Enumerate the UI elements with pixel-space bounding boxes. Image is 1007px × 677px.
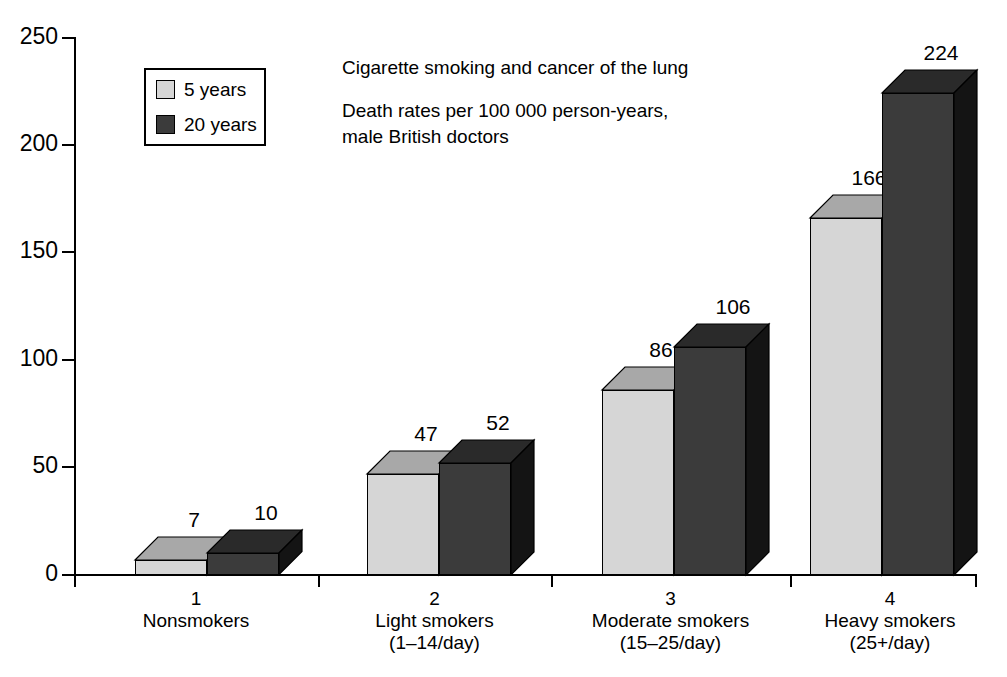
x-group-label-4: 4 Heavy smokers (25+/day) <box>790 588 990 654</box>
chart-title: Cigarette smoking and cancer of the lung <box>342 55 762 81</box>
chart-subtitle-line-2: male British doctors <box>342 124 762 150</box>
bar-front-face <box>602 390 674 575</box>
x-group-number-1: 1 <box>74 588 318 610</box>
bar-front-face <box>882 93 954 575</box>
bar-top-face <box>439 440 511 463</box>
bar-front-face <box>367 474 439 575</box>
x-group-name-4: Heavy smokers <box>790 610 990 632</box>
bar-4-20-years <box>882 70 954 575</box>
bar-2-20-years <box>439 440 511 575</box>
y-tick-label-0: 0 <box>4 562 58 585</box>
y-tick-mark-200 <box>62 144 74 146</box>
bar-value-label-1-20-years: 10 <box>216 502 316 523</box>
x-group-range-4: (25+/day) <box>790 632 990 654</box>
legend: 5 years 20 years <box>144 68 266 146</box>
y-tick-mark-50 <box>62 466 74 468</box>
x-group-name-2: Light smokers <box>318 610 551 632</box>
y-tick-label-50: 50 <box>4 454 58 477</box>
bar-top-face <box>367 451 439 474</box>
bar-side-face <box>511 440 534 575</box>
bar-top-face <box>810 195 882 218</box>
bar-side-face <box>279 530 302 575</box>
x-group-name-3: Moderate smokers <box>551 610 790 632</box>
bar-chart: 250 200 150 100 50 0 5 years <box>0 0 1007 677</box>
y-tick-label-200: 200 <box>4 132 58 155</box>
legend-swatch-20-years <box>156 115 175 134</box>
bar-front-face <box>810 218 882 575</box>
bar-side-face <box>954 70 977 575</box>
x-group-number-4: 4 <box>790 588 990 610</box>
y-axis-line <box>74 37 76 576</box>
bar-3-5-years <box>602 367 674 575</box>
y-tick-mark-150 <box>62 251 74 253</box>
chart-subtitle-line-1: Death rates per 100 000 person-years, <box>342 98 762 124</box>
bar-front-face <box>439 463 511 575</box>
x-group-range-2: (1–14/day) <box>318 632 551 654</box>
x-group-label-2: 2 Light smokers (1–14/day) <box>318 588 551 654</box>
bar-top-face <box>882 70 954 93</box>
x-group-number-3: 3 <box>551 588 790 610</box>
x-group-label-3: 3 Moderate smokers (15–25/day) <box>551 588 790 654</box>
bar-3-20-years <box>674 324 746 575</box>
y-tick-label-150: 150 <box>4 239 58 262</box>
legend-label-20-years: 20 years <box>184 115 257 134</box>
bar-front-face <box>674 347 746 575</box>
x-group-name-1: Nonsmokers <box>74 610 318 632</box>
bar-top-face <box>602 367 674 390</box>
bar-value-label-2-20-years: 52 <box>448 412 548 433</box>
y-tick-mark-0 <box>62 574 74 576</box>
x-tick-mark-4 <box>975 576 977 587</box>
y-tick-mark-100 <box>62 359 74 361</box>
x-group-label-1: 1 Nonsmokers <box>74 588 318 632</box>
x-group-number-2: 2 <box>318 588 551 610</box>
legend-label-5-years: 5 years <box>184 80 246 99</box>
bar-value-label-4-20-years: 224 <box>891 42 991 63</box>
x-tick-mark-2 <box>551 576 553 587</box>
y-tick-label-100: 100 <box>4 347 58 370</box>
bar-2-5-years <box>367 451 439 575</box>
x-group-range-3: (15–25/day) <box>551 632 790 654</box>
y-tick-label-250: 250 <box>4 25 58 48</box>
bar-value-label-3-20-years: 106 <box>683 296 783 317</box>
bar-top-face <box>135 537 207 560</box>
legend-swatch-5-years <box>156 80 175 99</box>
bar-top-face <box>207 530 279 553</box>
bar-4-5-years <box>810 195 882 575</box>
bar-side-face <box>746 324 769 575</box>
bar-1-20-years <box>207 530 279 575</box>
x-tick-mark-1 <box>318 576 320 587</box>
legend-item-20-years: 20 years <box>156 112 257 136</box>
legend-item-5-years: 5 years <box>156 77 246 101</box>
x-tick-mark-3 <box>790 576 792 587</box>
x-tick-mark-0 <box>74 576 76 587</box>
y-tick-mark-250 <box>62 37 74 39</box>
bar-front-face <box>207 553 279 575</box>
bar-1-5-years <box>135 537 207 575</box>
bar-front-face <box>135 560 207 575</box>
bar-top-face <box>674 324 746 347</box>
chart-annotation: Cigarette smoking and cancer of the lung… <box>342 55 762 150</box>
